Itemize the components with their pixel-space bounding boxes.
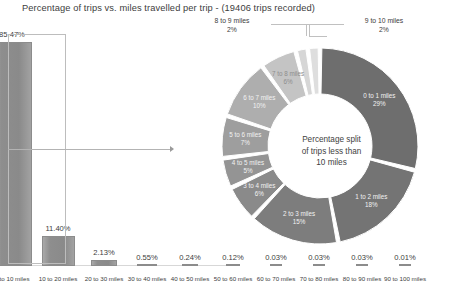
donut-svg [196,22,467,280]
donut-chart: Percentage split of trips less than 10 m… [196,22,467,280]
donut-slice[interactable] [331,160,415,242]
bar-column[interactable]: 0.55%30 to 40 miles [137,263,157,266]
callout-connector-line [8,149,171,150]
bar-rect[interactable] [91,260,117,266]
callout-8-to-9-leader-h2 [309,36,327,37]
x-axis-tick-label: 10 to 20 miles [39,275,78,282]
x-axis-tick-label: 20 to 30 miles [85,275,124,282]
callout-9-to-10-leader-v [306,24,307,36]
callout-8-to-9-miles: 8 to 9 miles 2% [195,16,269,34]
x-axis-tick-label: 30 to 40 miles [128,275,167,282]
donut-slice[interactable] [321,48,418,169]
callout-8-to-9-leader-h [271,24,310,25]
callout-9-to-10-miles: 9 to 10 miles 2% [344,16,424,34]
page-title: Percentage of trips vs. miles travelled … [22,3,315,13]
bar-column[interactable]: 2.13%20 to 30 miles [91,258,117,266]
chart-root: Percentage of trips vs. miles travelled … [0,0,467,306]
bar-value-label: 2.13% [93,248,115,257]
callout-9-to-10-label: 9 to 10 miles [344,16,424,25]
callout-8-to-9-value: 2% [195,25,269,34]
callout-connector-arrow [170,146,174,152]
bar-value-label: 0.55% [136,253,158,262]
callout-9-to-10-value: 2% [344,25,424,34]
callout-8-to-9-label: 8 to 9 miles [195,16,269,25]
bar-rect[interactable] [137,264,157,266]
x-axis-tick-label: 0 to 10 miles [0,275,30,282]
callout-9-to-10-leader-h [306,24,344,25]
